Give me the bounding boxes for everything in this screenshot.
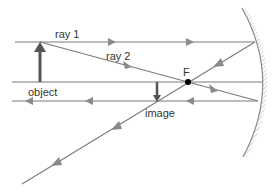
focal-point xyxy=(185,79,191,85)
ray1-reflected-arrowhead-2 xyxy=(111,121,122,130)
focus-label: F xyxy=(183,66,190,78)
object-label: object xyxy=(28,86,57,98)
ray1-arrowhead-2 xyxy=(186,38,194,46)
ray1-reflected-arrowhead xyxy=(213,58,224,67)
ray1-reflected-arrowhead-3 xyxy=(51,157,62,166)
ray-diagram: ray 1 ray 2 F object image xyxy=(0,0,272,195)
ray2-reflected-arrowhead-2 xyxy=(85,97,93,105)
ray2-reflected-arrowhead xyxy=(186,97,194,105)
ray2-label: ray 2 xyxy=(106,50,130,62)
ray2-arrowhead-2 xyxy=(209,84,218,93)
ray2-arrowhead xyxy=(123,61,132,69)
ray2-incident xyxy=(40,42,258,101)
object-arrow xyxy=(34,42,46,82)
ray2-reflected-arrowhead-3 xyxy=(25,97,33,105)
image-arrow xyxy=(153,82,161,102)
ray1-arrowhead xyxy=(108,38,116,46)
ray1-label: ray 1 xyxy=(55,28,79,40)
image-label: image xyxy=(145,107,175,119)
